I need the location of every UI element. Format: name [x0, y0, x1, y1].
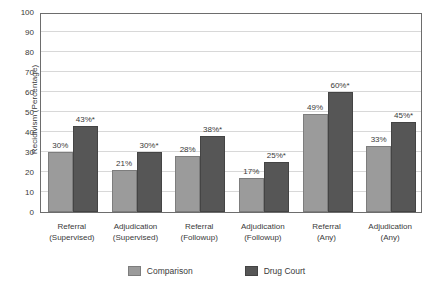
gridline	[41, 71, 421, 72]
bar-value-label: 38%*	[193, 126, 232, 134]
bar-value-label: 45%*	[384, 112, 423, 120]
bar-drugcourt	[328, 92, 353, 212]
gridline	[41, 151, 421, 152]
bar-drugcourt	[73, 126, 98, 212]
gridline	[41, 191, 421, 192]
gridline	[41, 91, 421, 92]
bar-comparison	[303, 114, 328, 212]
bar-comparison	[239, 178, 264, 212]
legend-label: Comparison	[147, 267, 193, 276]
bar-chart-figure: Recidivism (Percentage) 1009080706050403…	[0, 0, 433, 293]
bar-value-label: 60%*	[321, 82, 360, 90]
gridline	[41, 51, 421, 52]
chart-legend: ComparisonDrug Court	[0, 266, 433, 276]
gridline	[41, 31, 421, 32]
legend-item[interactable]: Comparison	[128, 266, 193, 276]
bar-comparison	[112, 170, 137, 212]
y-axis-title: Recidivism (Percentage)	[30, 15, 39, 205]
bar-comparison	[48, 152, 73, 212]
bar-drugcourt	[264, 162, 289, 212]
bar-value-label: 25%*	[257, 152, 296, 160]
x-axis-tick-label-line: (Any)	[350, 233, 430, 244]
bar-comparison	[366, 146, 391, 212]
bar-drugcourt	[391, 122, 416, 212]
bar-drugcourt	[200, 136, 225, 212]
legend-swatch-drugcourt	[245, 266, 258, 276]
x-axis-tick-label: Adjudication(Any)	[350, 222, 430, 243]
legend-item[interactable]: Drug Court	[245, 266, 306, 276]
x-axis-tick-label-line: Adjudication	[350, 222, 430, 233]
plot-area: 30%43%*21%30%*28%38%*17%25%*49%60%*33%45…	[40, 13, 422, 213]
y-axis-tick-label: 0	[8, 209, 34, 217]
bar-drugcourt	[137, 152, 162, 212]
gridline	[41, 111, 421, 112]
legend-swatch-comparison	[128, 266, 141, 276]
legend-label: Drug Court	[264, 267, 306, 276]
bar-value-label: 43%*	[66, 116, 105, 124]
bar-comparison	[175, 156, 200, 212]
bar-value-label: 30%*	[130, 142, 169, 150]
